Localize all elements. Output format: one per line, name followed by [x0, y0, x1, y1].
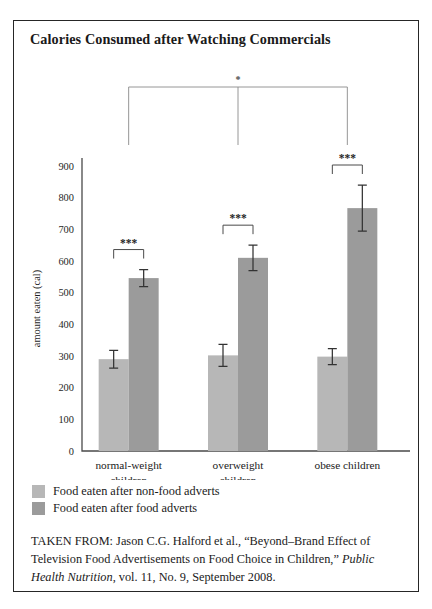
svg-text:***: *** — [339, 152, 357, 164]
chart-legend: Food eaten after non-food adverts Food e… — [32, 483, 404, 517]
svg-text:600: 600 — [58, 256, 74, 267]
legend-item: Food eaten after food adverts — [32, 500, 404, 516]
svg-text:300: 300 — [58, 351, 74, 362]
svg-text:***: *** — [229, 212, 247, 224]
legend-swatch-food-adverts — [32, 502, 45, 515]
svg-text:400: 400 — [58, 319, 74, 330]
svg-text:500: 500 — [58, 287, 74, 298]
svg-text:800: 800 — [58, 192, 74, 203]
svg-text:amount eaten (cal): amount eaten (cal) — [31, 270, 43, 347]
svg-text:overweight: overweight — [213, 459, 265, 471]
source-suffix: , vol. 11, No. 9, September 2008. — [113, 570, 276, 584]
svg-text:700: 700 — [58, 224, 74, 235]
plot-area: 0100200300400500600700800900amount eaten… — [14, 55, 420, 480]
figure-frame: Calories Consumed after Watching Commerc… — [13, 20, 419, 592]
svg-text:normal-weight: normal-weight — [95, 459, 162, 471]
svg-text:children: children — [110, 474, 147, 481]
svg-text:*: * — [236, 74, 241, 85]
svg-text:900: 900 — [58, 161, 74, 172]
source-citation: TAKEN FROM: Jason C.G. Halford et al., “… — [31, 533, 405, 587]
svg-text:obese children: obese children — [315, 459, 381, 471]
bar-chart: 0100200300400500600700800900amount eaten… — [14, 55, 420, 480]
legend-item: Food eaten after non-food adverts — [32, 483, 404, 499]
svg-text:100: 100 — [58, 414, 74, 425]
svg-text:0: 0 — [69, 446, 74, 457]
legend-label: Food eaten after non-food adverts — [53, 484, 220, 499]
source-prefix: TAKEN FROM: Jason C.G. Halford et al., “… — [31, 534, 370, 566]
svg-text:***: *** — [120, 237, 138, 249]
legend-swatch-non-food-adverts — [32, 485, 45, 498]
legend-label: Food eaten after food adverts — [53, 501, 197, 516]
svg-text:200: 200 — [58, 382, 74, 393]
svg-text:children: children — [219, 474, 256, 481]
chart-title: Calories Consumed after Watching Commerc… — [30, 31, 331, 48]
